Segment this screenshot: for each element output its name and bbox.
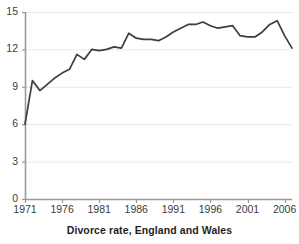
- x-axis-tick-label: 1986: [119, 203, 153, 215]
- y-axis-tick-label: 15: [0, 6, 18, 17]
- x-axis-tick-label: 1981: [82, 203, 116, 215]
- y-axis-tick-label: 6: [0, 118, 18, 129]
- x-axis-labels: 19711976198119861991199620012006: [0, 203, 299, 219]
- y-axis-tick-label: 3: [0, 156, 18, 167]
- x-axis-tick-label: 1991: [156, 203, 190, 215]
- x-axis-tick-label: 1996: [193, 203, 227, 215]
- x-axis-tick-label: 1971: [8, 203, 42, 215]
- gridlines: [25, 13, 292, 163]
- x-axis-tick-label: 2006: [268, 203, 299, 215]
- x-axis-tick-label: 1976: [45, 203, 79, 215]
- data-series-line: [25, 21, 292, 124]
- y-axis-tick-label: 9: [0, 81, 18, 92]
- chart-caption: Divorce rate, England and Wales: [0, 224, 299, 236]
- divorce-rate-line-chart: 03691215 1971197619811986199119962001200…: [0, 0, 299, 244]
- x-axis-tick-label: 2001: [231, 203, 265, 215]
- y-axis-tick-label: 12: [0, 43, 18, 54]
